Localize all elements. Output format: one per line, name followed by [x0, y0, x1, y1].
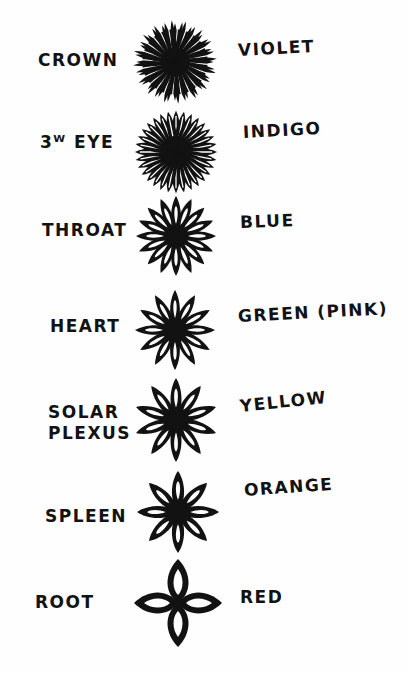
- chakra-name-spleen: SPLEEN: [45, 506, 127, 527]
- lotus-32-petal-icon: [130, 106, 222, 198]
- chakra-name-line: THROAT: [42, 220, 127, 241]
- chakra-name-line: ROOT: [35, 592, 95, 613]
- chakra-name-line: CROWN: [38, 50, 119, 71]
- chakra-diagram: CROWNVIOLET3ᵂ EYEINDIGOTHROATBLUEHEARTGR…: [0, 0, 409, 673]
- lotus-4-petal-icon: [130, 555, 226, 651]
- chakra-name-line: SPLEEN: [45, 506, 127, 527]
- chakra-name-throat: THROAT: [42, 220, 127, 241]
- lotus-10-petal-icon: [130, 374, 222, 466]
- chakra-name-line: 3ᵂ EYE: [40, 132, 114, 153]
- chakra-name-line: HEART: [50, 316, 120, 337]
- chakra-color-crown: VIOLET: [237, 36, 315, 61]
- chakra-name-root: ROOT: [35, 592, 95, 613]
- lotus-12-petal-icon: [131, 286, 219, 374]
- chakra-name-solar-plexus: SOLARPLEXUS: [48, 402, 131, 444]
- lotus-48-petal-icon: [129, 16, 221, 108]
- chakra-color-3-eye: INDIGO: [242, 118, 321, 143]
- chakra-name-heart: HEART: [50, 316, 120, 337]
- chakra-color-solar-plexus: YELLOW: [239, 387, 328, 417]
- chakra-name-crown: CROWN: [38, 50, 119, 71]
- chakra-name-line: PLEXUS: [48, 423, 131, 444]
- chakra-name-3-eye: 3ᵂ EYE: [40, 132, 114, 153]
- chakra-color-throat: BLUE: [240, 210, 295, 233]
- chakra-color-root: RED: [240, 587, 283, 608]
- chakra-name-line: SOLAR: [48, 402, 131, 423]
- chakra-color-heart: GREEN (PINK): [237, 298, 388, 327]
- lotus-16-petal-icon: [132, 192, 220, 280]
- chakra-color-spleen: ORANGE: [243, 474, 334, 501]
- lotus-8-petal-icon: [133, 467, 223, 557]
